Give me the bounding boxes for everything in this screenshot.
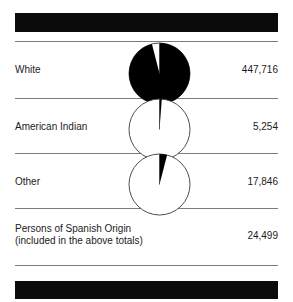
row-value-american-indian: 5,254 [253,121,278,132]
top-black-band [15,13,278,32]
table-row: White 447,716 [15,42,278,98]
row-label-american-indian: American Indian [15,121,87,133]
census-population-table-figure: White 447,716 American Indian 5,254 Othe… [0,0,293,302]
row-value-other: 17,846 [247,176,278,187]
row-label-white: White [15,64,41,76]
bottom-black-band [15,281,278,299]
row-label-other: Other [15,176,40,188]
row-label-spanish-origin: Persons of Spanish Origin (included in t… [15,223,143,247]
table-row: American Indian 5,254 [15,99,278,153]
row-value-white: 447,716 [242,64,278,75]
table-row: Persons of Spanish Origin (included in t… [15,209,278,265]
table-row: Other 17,846 [15,154,278,208]
row-label-spanish-origin-line2: (included in the above totals) [15,235,143,247]
row-value-spanish-origin: 24,499 [247,230,278,241]
divider-rule-5 [15,265,278,266]
row-label-spanish-origin-line1: Persons of Spanish Origin [15,223,131,234]
